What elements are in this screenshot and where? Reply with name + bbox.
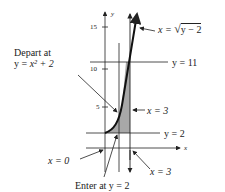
y-tick-10: 10 (90, 65, 97, 73)
y-11-label: y = 11 (172, 57, 197, 68)
pointer-x0 (80, 150, 103, 159)
enter-label: Enter at y = 2 (75, 180, 130, 191)
x-3-lower-label: x = 3 (150, 166, 171, 177)
y-tick-5: 5 (96, 103, 100, 111)
pointer-x3-lower (133, 151, 150, 169)
x-0-label: x = 0 (48, 155, 69, 166)
pointer-curve-eq (140, 28, 155, 31)
depart-label: Depart at y = x² + 2 (14, 47, 54, 69)
pointer-enter (104, 135, 117, 177)
y-axis-label: y (111, 10, 114, 18)
y-2-label: y = 2 (164, 128, 185, 139)
shaded-region (119, 62, 130, 133)
x-axis-label: x (184, 144, 187, 152)
x-3-upper-label: x = 3 (147, 105, 168, 116)
curve-equation-label: x = √y − 2 (158, 24, 201, 35)
y-tick-15: 15 (90, 23, 97, 31)
